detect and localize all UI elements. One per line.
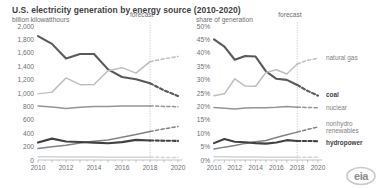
right-y-tick: 0% (184, 157, 210, 164)
left-y-tick: 200 (0, 143, 34, 150)
left-series-forecast-nuclear (150, 106, 178, 107)
series-label-nonhydro-line2: renewables (326, 128, 359, 135)
left-y-tick: 600 (0, 116, 34, 123)
left-y-tick: 0 (0, 157, 34, 164)
left-series-nuclear (38, 106, 150, 109)
right-series-other (214, 157, 297, 158)
left-y-tick: 1,600 (0, 49, 34, 56)
right-series-forecast-natural-gas (297, 58, 318, 64)
right-y-tick: 35% (184, 63, 210, 70)
eia-logo-text: eia (354, 170, 369, 182)
right-y-tick: 50% (184, 23, 210, 30)
left-series-forecast-nonhydro-renewables (150, 127, 178, 132)
left-x-tick: 2012 (54, 164, 78, 172)
right-y-tick: 40% (184, 49, 210, 56)
left-series-forecast-coal (150, 83, 178, 96)
series-label-coal: coal (326, 92, 339, 99)
left-x-tick: 2010 (26, 164, 50, 172)
right-chart-plot (184, 0, 384, 188)
right-series-nuclear (214, 106, 297, 109)
left-y-tick: 800 (0, 103, 34, 110)
left-chart-panel: 02004006008001,0001,2001,4001,6001,8002,… (0, 0, 184, 188)
chart-figure: U.S. electricity generation by energy so… (0, 0, 384, 188)
left-series-coal (38, 36, 150, 83)
left-y-tick: 1,200 (0, 76, 34, 83)
left-y-tick: 2,000 (0, 23, 34, 30)
right-series-forecast-nuclear (297, 107, 318, 108)
right-x-tick: 2020 (306, 164, 330, 172)
series-label-nuclear: nuclear (326, 105, 347, 112)
right-y-tick: 15% (184, 116, 210, 123)
left-y-tick: 1,400 (0, 63, 34, 70)
right-y-tick: 45% (184, 36, 210, 43)
right-y-tick: 30% (184, 76, 210, 83)
right-y-tick: 20% (184, 103, 210, 110)
right-chart-panel: 0%5%10%15%20%25%30%35%40%45%50% 20102012… (184, 0, 384, 188)
right-y-tick: 25% (184, 90, 210, 97)
left-forecast-label: forecast (130, 11, 153, 18)
series-label-hydropower: hydropower (326, 140, 363, 147)
left-x-tick: 2016 (110, 164, 134, 172)
right-series-forecast-nonhydro-renewables (297, 127, 318, 132)
left-y-tick: 1,800 (0, 36, 34, 43)
left-series-forecast-natural-gas (150, 56, 178, 61)
series-label-natural-gas: natural gas (326, 55, 358, 62)
left-y-tick: 1,000 (0, 90, 34, 97)
eia-logo: eia (344, 166, 378, 186)
left-x-tick: 2018 (138, 164, 162, 172)
right-series-forecast-coal (297, 85, 318, 96)
right-y-tick: 5% (184, 143, 210, 150)
right-series-coal (214, 39, 297, 85)
left-series-other (38, 157, 150, 158)
left-x-tick: 2014 (82, 164, 106, 172)
right-forecast-label: forecast (278, 11, 301, 18)
left-y-tick: 400 (0, 130, 34, 137)
right-y-tick: 10% (184, 130, 210, 137)
